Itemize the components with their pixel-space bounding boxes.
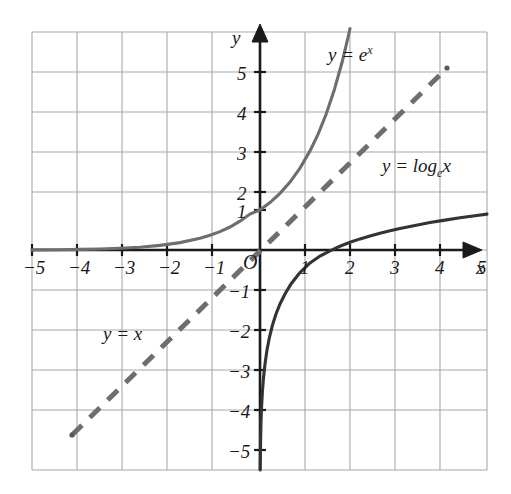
identity-endpoint-lower — [69, 432, 74, 437]
ytick-label-4: 4 — [237, 104, 247, 123]
ytick-label-5: 5 — [237, 64, 247, 83]
ytick-label--4: −4 — [228, 402, 250, 421]
xtick-label-4: 4 — [435, 258, 445, 277]
logarithm-curve-label-text: y = log — [382, 155, 437, 176]
exponential-curve — [32, 29, 350, 250]
xtick-label--3: −3 — [113, 258, 135, 277]
logarithm-curve-label-arg: x — [442, 155, 450, 176]
y-axis-label: y — [232, 28, 240, 47]
ytick-label-1: 1 — [237, 202, 247, 221]
exponential-curve-label-exponent: x — [367, 43, 372, 57]
xtick-label--5: −5 — [23, 258, 45, 277]
xtick-label-3: 3 — [390, 258, 400, 277]
origin-label: O — [243, 252, 257, 272]
y-axis-arrowhead — [252, 24, 268, 42]
axes — [32, 24, 482, 470]
identity-line-label: y = x — [103, 324, 142, 343]
ytick-label--3: −3 — [228, 362, 250, 381]
xtick-label--1: −1 — [203, 258, 225, 277]
identity-endpoint-upper — [444, 65, 449, 70]
xtick-label--2: −2 — [158, 258, 180, 277]
xtick-label-1: 1 — [300, 258, 310, 277]
logarithm-curve-label: y = logex — [382, 156, 451, 179]
tick-marks — [32, 72, 440, 450]
x-axis-arrowhead — [463, 242, 482, 258]
exponential-curve-label: y = ex — [328, 44, 373, 64]
ytick-label-3: 3 — [237, 144, 247, 163]
logarithm-curve — [260, 214, 487, 470]
ytick-label--2: −2 — [228, 322, 250, 341]
plot-canvas — [0, 0, 511, 494]
graph-figure: −5 −4 −3 −2 −1 1 2 3 4 5 5 4 3 2 1 −1 −2… — [0, 0, 511, 494]
x-axis-label: x — [476, 258, 484, 277]
ytick-label--1: −1 — [228, 282, 250, 301]
ytick-label--5: −5 — [228, 442, 250, 461]
xtick-label--4: −4 — [68, 258, 90, 277]
xtick-label-2: 2 — [345, 258, 355, 277]
exponential-curve-label-text: y = e — [328, 44, 367, 65]
